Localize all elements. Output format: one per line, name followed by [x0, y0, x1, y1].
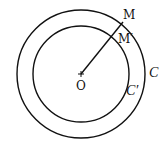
concentric-circles-figure — [0, 0, 167, 156]
diagram-canvas: M M′ O C C′ — [0, 0, 167, 156]
center-o-label: O — [76, 80, 86, 92]
segment-om — [81, 22, 123, 74]
point-m-prime-label: M′ — [118, 33, 133, 45]
outer-circle-label: C — [149, 66, 158, 80]
inner-circle-label: C′ — [126, 84, 138, 98]
point-m-label: M — [123, 9, 135, 21]
